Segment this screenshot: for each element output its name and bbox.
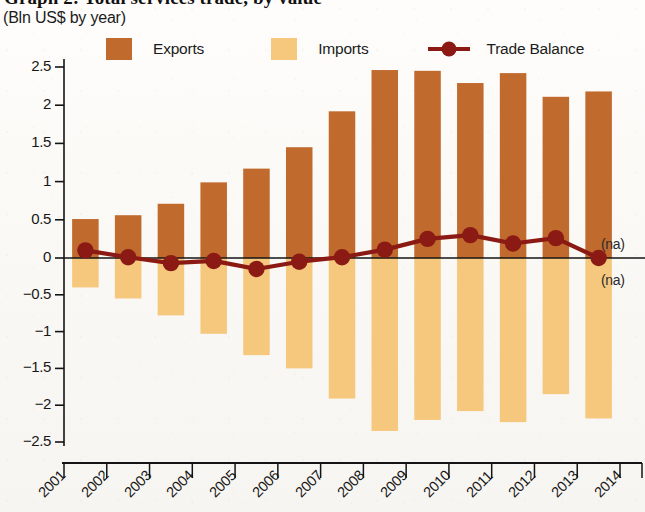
chart-container: Graph 2: Total services trade, by value …	[0, 0, 645, 512]
trade-balance-point-2002	[120, 249, 136, 265]
bar-exports-2005	[243, 169, 270, 258]
na-label-below-zero: (na)	[601, 272, 625, 288]
bar-exports-2008	[372, 70, 399, 258]
bar-imports-2012	[543, 258, 570, 394]
bar-imports-2004	[200, 258, 227, 334]
trade-balance-point-2012	[548, 230, 564, 246]
y-tick-label-7: −1	[35, 322, 51, 339]
bar-exports-2009	[414, 71, 441, 258]
trade-balance-point-2001	[77, 242, 93, 258]
bar-imports-2001	[72, 258, 99, 287]
y-tick-label-2: 1.5	[31, 133, 51, 150]
bar-exports-2007	[329, 111, 356, 258]
y-tick-label-4: 0.5	[31, 210, 51, 227]
bar-exports-2013	[585, 91, 612, 258]
bar-imports-2010	[457, 258, 484, 411]
bar-imports-2011	[500, 258, 527, 422]
bar-imports-2007	[329, 258, 356, 399]
bar-exports-2004	[200, 182, 227, 258]
na-label-above-zero: (na)	[601, 236, 625, 252]
y-tick-label-0: 2.5	[31, 57, 51, 74]
bar-exports-2006	[286, 147, 313, 258]
trade-balance-point-2005	[248, 261, 264, 277]
bars-imports	[72, 258, 612, 431]
y-tick-label-8: −1.5	[23, 358, 51, 375]
bar-imports-2008	[372, 258, 399, 431]
trade-balance-point-2007	[334, 249, 350, 265]
plot-area: 2.521.510.50−0.5−1−1.5−2−2.5 20012002200…	[0, 0, 645, 512]
trade-balance-point-2006	[291, 253, 307, 269]
trade-balance-point-2004	[205, 253, 221, 269]
bar-imports-2009	[414, 258, 441, 420]
y-tick-label-5: 0	[43, 248, 51, 265]
trade-balance-point-2009	[419, 231, 435, 247]
trade-balance-point-2010	[462, 227, 478, 243]
plot-svg	[0, 0, 645, 512]
y-tick-label-3: 1	[43, 172, 51, 189]
trade-balance-point-2008	[377, 241, 393, 257]
bar-imports-2006	[286, 258, 313, 368]
y-tick-label-1: 2	[43, 95, 51, 112]
bars-exports	[72, 70, 612, 258]
bar-exports-2003	[158, 204, 185, 258]
y-tick-label-9: −2	[35, 395, 51, 412]
y-tick-label-10: −2.5	[23, 432, 51, 449]
bar-exports-2011	[500, 73, 527, 258]
trade-balance-point-2011	[505, 235, 521, 251]
y-tick-label-6: −0.5	[23, 285, 51, 302]
trade-balance-point-2013	[590, 250, 606, 266]
trade-balance-point-2003	[163, 255, 179, 271]
